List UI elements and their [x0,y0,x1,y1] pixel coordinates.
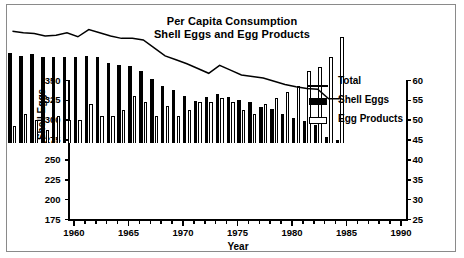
legend-item-total: Total [307,73,417,92]
y2-tick-label: 45 [413,135,443,145]
x-tick-major [291,220,293,226]
x-tick-minor [280,220,282,224]
y-tick-label: 225 [27,175,61,185]
x-tick-minor [95,220,97,224]
y-tick-label: 200 [27,195,61,205]
x-tick-minor [259,220,261,224]
x-tick-label: 1960 [54,228,94,238]
y2-tick-label: 25 [413,215,443,225]
y-tick [65,159,69,161]
legend-item-shell-eggs: Shell Eggs [307,92,417,111]
x-axis-title: Year [68,241,408,252]
x-tick-label: 1990 [381,228,421,238]
legend-item-egg-products: Egg Products [307,111,417,130]
x-tick-minor [368,220,370,224]
x-tick-minor [204,220,206,224]
x-tick-minor [150,220,152,224]
x-tick-minor [84,220,86,224]
x-tick-minor [389,220,391,224]
x-tick-minor [248,220,250,224]
y-tick [65,179,69,181]
plot-area [7,5,345,143]
y2-tick-label: 40 [413,155,443,165]
x-tick-minor [324,220,326,224]
x-tick-minor [193,220,195,224]
line-marker-icon [307,77,329,86]
x-tick-major [128,220,130,226]
x-tick-minor [171,220,173,224]
x-tick-minor [357,220,359,224]
x-tick-minor [378,220,380,224]
x-tick-major [182,220,184,226]
solid-bar-marker-icon [307,96,329,105]
total-line-series [7,5,345,143]
x-tick-minor [160,220,162,224]
x-tick-minor [139,220,141,224]
x-tick-minor [215,220,217,224]
x-tick-label: 1975 [218,228,258,238]
chart-legend: Total Shell Eggs Egg Products [307,73,417,130]
y2-tick [407,139,411,141]
y2-tick [407,179,411,181]
x-tick-major [237,220,239,226]
legend-label-total: Total [338,75,361,86]
y2-tick-label: 60 [413,76,443,86]
x-tick-major [73,220,75,226]
y2-tick-label: 35 [413,175,443,185]
y2-tick-label: 30 [413,195,443,205]
y2-tick-label: 55 [413,95,443,105]
x-tick-minor [117,220,119,224]
x-tick-minor [335,220,337,224]
y-tick [65,219,69,221]
y-tick [65,199,69,201]
open-bar-marker-icon [307,115,329,124]
x-tick-major [400,220,402,226]
x-tick-minor [269,220,271,224]
y-tick-label: 250 [27,155,61,165]
x-tick-label: 1985 [327,228,367,238]
y2-tick [407,219,411,221]
x-tick-major [346,220,348,226]
x-tick-label: 1970 [163,228,203,238]
y-tick-label: 175 [27,215,61,225]
legend-label-egg-products: Egg Products [338,113,403,124]
x-tick-label: 1980 [272,228,312,238]
y2-tick-label: 50 [413,115,443,125]
x-tick-minor [302,220,304,224]
y2-tick [407,159,411,161]
x-tick-minor [313,220,315,224]
x-tick-minor [106,220,108,224]
x-tick-label: 1965 [108,228,148,238]
chart-frame: Per Capita Consumption Shell Eggs and Eg… [6,4,456,252]
y2-tick [407,199,411,201]
legend-label-shell-eggs: Shell Eggs [338,94,389,105]
x-tick-minor [226,220,228,224]
